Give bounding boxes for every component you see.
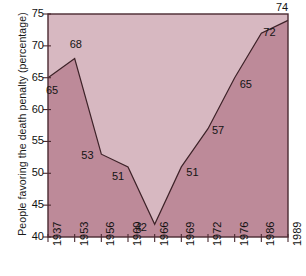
point-value-label: 68 bbox=[70, 39, 82, 50]
point-value-label: 65 bbox=[46, 85, 58, 96]
death-penalty-area-chart: People favoring the death penalty (perce… bbox=[0, 0, 306, 276]
x-tick-label: 1989 bbox=[292, 222, 303, 246]
point-value-label: 65 bbox=[240, 79, 252, 90]
x-tick-label: 1953 bbox=[79, 222, 90, 246]
point-value-label: 74 bbox=[276, 2, 288, 13]
x-tick-label: 1972 bbox=[212, 222, 223, 246]
point-value-label: 57 bbox=[212, 125, 224, 136]
point-value-label: 42 bbox=[135, 222, 147, 233]
point-value-label: 53 bbox=[81, 150, 93, 161]
x-tick-label: 1976 bbox=[239, 222, 250, 246]
x-tick-label: 1986 bbox=[265, 222, 276, 246]
x-tick-label: 1956 bbox=[105, 222, 116, 246]
x-tick-label: 1969 bbox=[185, 222, 196, 246]
point-value-label: 51 bbox=[186, 167, 198, 178]
x-tick-label: 1937 bbox=[52, 222, 63, 246]
x-axis-tick-labels: 1937195319561960196619691972197619861989 bbox=[0, 0, 306, 276]
x-tick-label: 1966 bbox=[159, 222, 170, 246]
point-value-label: 51 bbox=[112, 171, 124, 182]
point-value-label: 72 bbox=[263, 27, 275, 38]
